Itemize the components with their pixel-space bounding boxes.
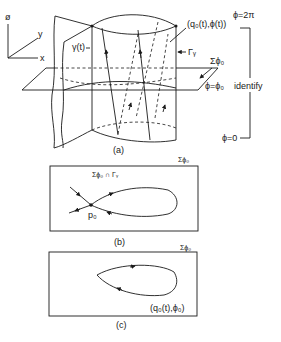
section-label-b: Σϕ₀ [178,156,189,164]
Gamma-gamma-label: Γᵧ [188,47,196,57]
intersection-label: Σϕ₀ ∩ Γᵧ [92,171,119,179]
section-label-a: Σϕ₀ [210,56,225,66]
phi-2pi-label: ϕ=2π [233,10,255,20]
section-plane [22,68,218,90]
plane-equation-label: ϕ=ϕ₀ [205,81,224,91]
coordinate-axes: ø y x [5,12,45,63]
caption-b: (b) [114,237,125,247]
section-label-c: Σϕ₀ [180,244,191,252]
phase-space-cylinder [52,15,178,148]
panel-a: ø y x [5,10,263,155]
panel-b: Σϕ₀ Σϕ₀ ∩ Γᵧ p₀ (b) [50,156,198,247]
caption-c: (c) [116,320,127,330]
panel-c: Σϕ₀ (q₀(t),ϕ₀) (c) [49,244,197,330]
y-axis-label: y [38,29,43,39]
identify-bracket: ϕ=2π identify ϕ=0 [222,10,263,143]
gamma-t-label: γ(t) [72,42,85,52]
p0-label: p₀ [88,210,97,220]
curve-label: (q₀(t),ϕ₀) [150,303,185,313]
phi-axis-label: ø [5,12,11,22]
figure-canvas: ø y x [0,0,281,342]
trajectory-point-label: (q₀(t),ϕ(t)) [187,19,226,29]
identify-label: identify [234,81,263,91]
x-axis-label: x [40,53,45,63]
phi-zero-label: ϕ=0 [222,133,237,143]
caption-a: (a) [113,145,124,155]
